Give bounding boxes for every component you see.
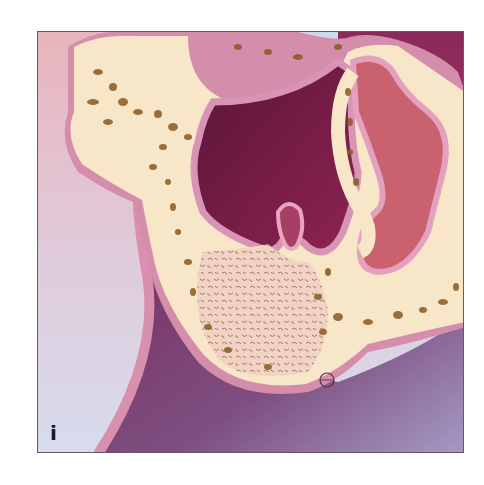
illustration-frame (37, 31, 464, 453)
bone-graft (197, 244, 328, 376)
panel-label: i (50, 423, 57, 443)
anatomical-illustration (38, 32, 464, 453)
